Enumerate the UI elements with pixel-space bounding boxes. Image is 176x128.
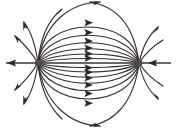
right-pole-dot — [136, 60, 143, 67]
left-pole-dot — [35, 60, 41, 66]
diagram-background — [0, 0, 176, 128]
field-line-diagram — [0, 0, 176, 128]
dipole-figure — [0, 0, 176, 128]
